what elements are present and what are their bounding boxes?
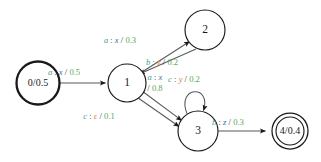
state-4-final[interactable]: 4/0.4 (272, 113, 308, 149)
edge-label-transition-2-to-1: b : y / 0.2 (146, 57, 178, 67)
state-3-label: 3 (195, 124, 201, 136)
edge-label-transition-0-to-1: a : x / 0.5 (48, 67, 80, 77)
state-4-label: 4/0.4 (280, 125, 300, 136)
label-part-weight: 0.1 (102, 111, 115, 121)
state-2-label: 2 (202, 23, 208, 35)
label-part-weight: 0.3 (123, 35, 136, 45)
label-part-output: x (156, 72, 162, 82)
label-part-weight: 0.5 (67, 67, 80, 77)
edge-1-to-3-upper (142, 91, 182, 120)
label-part-weight: 0.8 (150, 83, 163, 93)
state-0-label: 0/0.5 (28, 77, 48, 88)
edge-label-transition-3-self-loop: c : y / 0.2 (168, 74, 200, 84)
label-part-weight: 0.2 (165, 57, 178, 67)
edge-label-transition-3-to-4: b : z / 0.3 (212, 117, 244, 127)
state-2[interactable]: 2 (185, 10, 225, 50)
state-1[interactable]: 1 (108, 64, 146, 102)
fst-graph: 0/0.5 1 2 3 4/0.4 (0, 0, 321, 162)
edge-1-to-3-lower (138, 98, 180, 127)
edge-label-transition-1-to-3-upper-line1: a : x (148, 72, 163, 82)
label-part-weight: 0.3 (231, 117, 244, 127)
edge-label-transition-1-to-3-upper-line2: / 0.8 (147, 83, 162, 93)
label-part-weight: 0.2 (187, 74, 200, 84)
edge-3-self-loop (185, 92, 205, 114)
edge-label-transition-1-to-3-lower: c : ε / 0.1 (83, 111, 114, 121)
fst-diagram-canvas: 0/0.5 1 2 3 4/0.4 (0, 0, 321, 162)
edge-label-transition-1-to-2: a : x / 0.3 (104, 35, 136, 45)
state-1-label: 1 (124, 76, 130, 88)
